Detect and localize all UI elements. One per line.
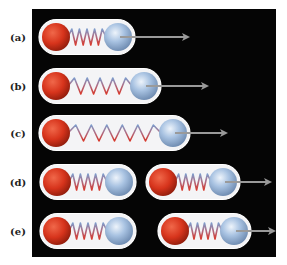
molecule-diagram xyxy=(0,0,287,265)
red-atom xyxy=(149,168,177,196)
red-atom xyxy=(42,119,70,147)
blue-atom xyxy=(105,168,133,196)
red-atom xyxy=(43,217,71,245)
red-atom xyxy=(43,168,71,196)
red-atom xyxy=(42,72,70,100)
red-atom xyxy=(161,217,189,245)
red-atom xyxy=(42,23,70,51)
blue-atom xyxy=(105,217,133,245)
